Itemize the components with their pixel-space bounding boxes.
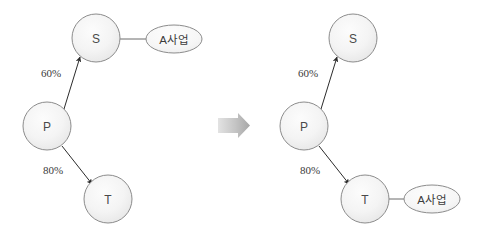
transition-arrow [218, 113, 250, 138]
node-t-label: T [361, 193, 369, 207]
node-t-label: T [104, 193, 112, 207]
business-ellipse-a-label: A사업 [417, 194, 447, 206]
node-s[interactable]: S [329, 14, 377, 62]
node-p-label: P [43, 120, 51, 134]
edge-weight-p-to-s: 60% [41, 67, 61, 79]
edge-weight-p-to-s: 60% [298, 67, 318, 79]
node-s-label: S [349, 32, 357, 46]
node-p[interactable]: P [23, 102, 71, 150]
node-s-label: S [92, 32, 100, 46]
business-ellipse-a[interactable]: A사업 [146, 25, 202, 53]
edge-weight-p-to-t: 80% [300, 164, 320, 176]
node-p[interactable]: P [280, 102, 328, 150]
node-t[interactable]: T [84, 175, 132, 223]
node-p-label: P [300, 120, 308, 134]
panel-after: S P T A사업 60% 80% [280, 14, 460, 223]
edge-p-to-t [319, 146, 349, 184]
node-t[interactable]: T [341, 175, 389, 223]
diagram-svg: S P T A사업 60% 80% [0, 0, 481, 238]
panel-before: S P T A사업 60% 80% [23, 14, 202, 223]
edge-p-to-s [321, 57, 337, 109]
edge-p-to-s [64, 57, 80, 109]
edge-p-to-t [62, 146, 92, 184]
business-ellipse-a-label: A사업 [159, 34, 189, 46]
edge-weight-p-to-t: 80% [43, 164, 63, 176]
diagram-canvas: S P T A사업 60% 80% [0, 0, 481, 238]
node-s[interactable]: S [72, 14, 120, 62]
business-ellipse-a[interactable]: A사업 [404, 185, 460, 213]
